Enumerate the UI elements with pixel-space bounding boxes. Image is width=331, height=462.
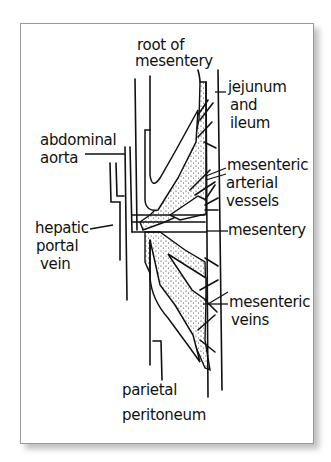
label-hepatic-portal-vein: hepatic portal vein [35, 219, 93, 273]
label-jejunum-and-ileum: jejunum and ileum [227, 78, 291, 132]
label-mesenteric-arterial-vessels: mesenteric arterial vessels [226, 156, 313, 210]
labels: root of mesentery jejunum and ileum abdo… [35, 36, 315, 424]
label-abdominal-aorta: abdominal aorta [40, 131, 121, 167]
mesentery-diagram: root of mesentery jejunum and ileum abdo… [0, 0, 331, 462]
label-parietal-peritoneum: parietal peritoneum [122, 381, 206, 424]
label-mesentery: mesentery [228, 221, 306, 239]
label-root-of-mesentery: root of mesentery [135, 36, 213, 70]
label-mesenteric-veins: mesenteric veins [229, 293, 315, 329]
